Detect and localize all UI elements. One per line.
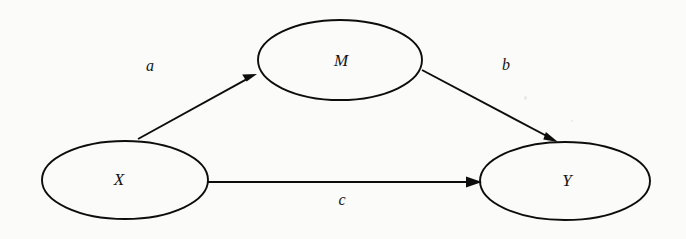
node-y[interactable]: Y bbox=[480, 142, 650, 220]
mediation-diagram-canvas: a b c X M Y bbox=[0, 0, 686, 239]
node-x[interactable]: X bbox=[42, 141, 208, 219]
edge-a-label: a bbox=[146, 57, 154, 74]
node-m[interactable]: M bbox=[258, 20, 422, 100]
edge-b-line bbox=[422, 70, 551, 138]
edge-b: b bbox=[422, 56, 558, 142]
edge-c-label: c bbox=[338, 191, 345, 208]
node-y-label: Y bbox=[562, 171, 573, 190]
edge-a-line bbox=[138, 78, 250, 139]
edge-b-arrowhead bbox=[543, 132, 558, 142]
node-x-ellipse[interactable] bbox=[42, 141, 208, 219]
edge-a: a bbox=[138, 57, 257, 139]
node-x-label: X bbox=[113, 170, 125, 189]
edge-b-label: b bbox=[502, 56, 510, 73]
node-m-label: M bbox=[333, 51, 349, 70]
edge-c: c bbox=[208, 177, 482, 208]
mediation-diagram-svg: a b c X M Y bbox=[0, 0, 686, 239]
